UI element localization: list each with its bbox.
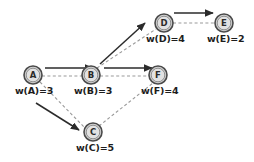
graph-svg: ABCDEF: [0, 0, 254, 162]
node-letter-d: D: [160, 18, 167, 28]
node-c[interactable]: C: [84, 123, 102, 141]
node-f[interactable]: F: [149, 66, 167, 84]
node-e[interactable]: E: [215, 14, 233, 32]
node-letter-c: C: [90, 127, 96, 137]
weight-label-c: w(C)=5: [76, 142, 114, 153]
solid-arrow-a-c: [36, 103, 79, 130]
node-letter-b: B: [88, 70, 94, 80]
node-a[interactable]: A: [24, 66, 42, 84]
solid-arrow-layer: [36, 13, 213, 130]
weight-label-d: w(D)=4: [146, 33, 185, 44]
weight-label-a: w(A)=3: [15, 85, 53, 96]
node-letter-e: E: [221, 18, 227, 28]
weight-label-e: w(E)=2: [207, 33, 244, 44]
solid-arrow-b-d: [100, 23, 145, 64]
diagram-canvas: ABCDEF w(A)=3w(B)=3w(C)=5w(D)=4w(E)=2w(F…: [0, 0, 254, 162]
node-d[interactable]: D: [155, 14, 173, 32]
weight-label-f: w(F)=4: [141, 85, 178, 96]
node-letter-f: F: [155, 70, 161, 80]
weight-label-b: w(B)=3: [74, 85, 112, 96]
node-layer: ABCDEF: [24, 14, 233, 141]
node-letter-a: A: [30, 70, 37, 80]
node-b[interactable]: B: [82, 66, 100, 84]
